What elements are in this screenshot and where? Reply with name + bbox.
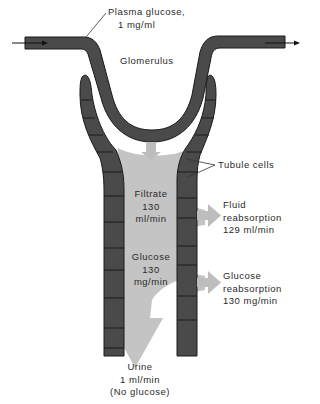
plasma-leader-line <box>86 13 106 37</box>
glucose-reabsorption-label: Glucose reabsorption 130 mg/min <box>223 270 282 308</box>
urine-line-1: Urine <box>100 361 180 374</box>
urine-line-2: 1 ml/min <box>100 374 180 387</box>
filtrate-line-2: 130 <box>125 201 177 214</box>
glucose-line-3: mg/min <box>125 276 177 289</box>
glucose-line-2: 130 <box>125 264 177 277</box>
glomerulus-label: Glomerulus <box>120 55 174 68</box>
urine-line-3: (No glucose) <box>100 386 180 399</box>
fluid-line-1: Fluid <box>223 199 282 212</box>
glucose-reab-line-2: reabsorption <box>223 283 282 296</box>
plasma-line-2: 1 mg/ml <box>108 19 185 32</box>
urine-label: Urine 1 ml/min (No glucose) <box>100 361 180 399</box>
glucose-reab-line-3: 130 mg/min <box>223 295 282 308</box>
plasma-line-1: Plasma glucose, <box>108 6 185 19</box>
glucose-reab-line-1: Glucose <box>223 270 282 283</box>
glomerular-capillary <box>25 36 285 142</box>
fluid-line-2: reabsorption <box>223 212 282 225</box>
glucose-filtered-label: Glucose 130 mg/min <box>125 251 177 289</box>
tubule-cells-label: Tubule cells <box>218 159 274 172</box>
fluid-line-3: 129 ml/min <box>223 224 282 237</box>
glucose-line-1: Glucose <box>125 251 177 264</box>
filtrate-label: Filtrate 130 ml/min <box>125 188 177 226</box>
fluid-reabsorption-label: Fluid reabsorption 129 ml/min <box>223 199 282 237</box>
plasma-glucose-label: Plasma glucose, 1 mg/ml <box>108 6 185 31</box>
filtrate-line-3: ml/min <box>125 213 177 226</box>
filtrate-line-1: Filtrate <box>125 188 177 201</box>
